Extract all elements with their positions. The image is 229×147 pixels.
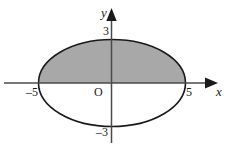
- y-axis-label: y: [101, 6, 107, 19]
- ellipse-diagram-canvas: [0, 0, 229, 147]
- x-tick-label-negative-5: –5: [26, 86, 38, 98]
- y-axis-arrowhead-icon: [106, 8, 116, 21]
- x-axis-label: x: [216, 85, 222, 98]
- y-tick-label-positive-3: 3: [103, 25, 109, 37]
- y-tick-label-negative-3: –3: [96, 126, 108, 138]
- ellipse-figure: y x O 3 –3 5 –5: [0, 0, 229, 147]
- origin-label: O: [94, 86, 103, 98]
- x-tick-label-positive-5: 5: [186, 86, 192, 98]
